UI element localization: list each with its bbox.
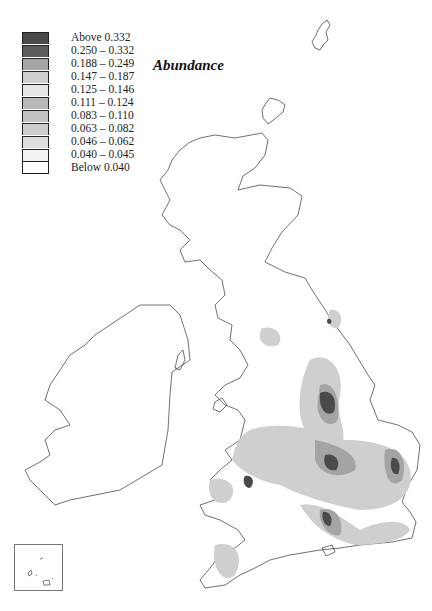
legend-label: Above 0.332 bbox=[71, 31, 130, 44]
legend-item: Below 0.040 bbox=[22, 161, 134, 174]
legend-swatch bbox=[22, 110, 49, 122]
legend-label: 0.083 – 0.110 bbox=[71, 109, 134, 122]
legend-label: 0.188 – 0.249 bbox=[71, 57, 134, 70]
legend-label: 0.040 – 0.045 bbox=[71, 148, 134, 161]
abundance-blobs bbox=[209, 310, 411, 578]
legend-label: 0.250 – 0.332 bbox=[71, 44, 134, 57]
channel-islands-inset bbox=[14, 544, 63, 591]
legend-label: Below 0.040 bbox=[71, 161, 130, 174]
legend-item: 0.188 – 0.249 bbox=[22, 57, 134, 70]
legend-swatch bbox=[22, 45, 49, 57]
legend-swatch bbox=[22, 149, 49, 161]
legend-label: 0.111 – 0.124 bbox=[71, 96, 133, 109]
legend-item: 0.063 – 0.082 bbox=[22, 122, 134, 135]
legend-item: 0.083 – 0.110 bbox=[22, 109, 134, 122]
legend-item: 0.040 – 0.045 bbox=[22, 148, 134, 161]
legend-swatch bbox=[22, 161, 49, 174]
map-title: Abundance bbox=[153, 57, 224, 74]
legend-swatch bbox=[22, 84, 49, 96]
legend-item: 0.046 – 0.062 bbox=[22, 135, 134, 148]
legend: Above 0.332 0.250 – 0.332 0.188 – 0.249 … bbox=[22, 31, 134, 174]
legend-swatch bbox=[22, 97, 49, 109]
legend-swatch bbox=[22, 123, 49, 135]
inset-map bbox=[15, 545, 64, 592]
legend-swatch bbox=[22, 58, 49, 70]
legend-item: Above 0.332 bbox=[22, 31, 134, 44]
legend-label: 0.063 – 0.082 bbox=[71, 122, 134, 135]
legend-item: 0.125 – 0.146 bbox=[22, 83, 134, 96]
legend-label: 0.147 – 0.187 bbox=[71, 70, 134, 83]
legend-item: 0.147 – 0.187 bbox=[22, 70, 134, 83]
legend-label: 0.046 – 0.062 bbox=[71, 135, 134, 148]
legend-swatch bbox=[22, 32, 49, 44]
legend-item: 0.250 – 0.332 bbox=[22, 44, 134, 57]
legend-swatch bbox=[22, 71, 49, 83]
legend-item: 0.111 – 0.124 bbox=[22, 96, 134, 109]
legend-label: 0.125 – 0.146 bbox=[71, 83, 134, 96]
legend-swatch bbox=[22, 136, 49, 148]
